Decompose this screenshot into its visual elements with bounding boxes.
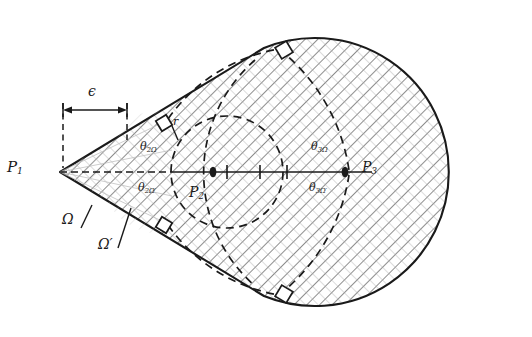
label-theta3-omega: θ3Ω (311, 141, 328, 153)
leader-omega (81, 205, 92, 228)
label-p3: P3 (362, 160, 377, 176)
label-omega-prime: Ω′ (98, 237, 113, 251)
label-p2: P2 (189, 185, 204, 201)
geometry-figure: P1 P2 P3 Ω Ω′ ϵ r θ2Ω θ2Ω′ θ3Ω θ3Ω′ (0, 0, 532, 337)
label-epsilon: ϵ (88, 84, 96, 98)
label-theta2-omega: θ2Ω (140, 141, 157, 153)
label-p1: P1 (7, 160, 23, 175)
label-theta3-omega-prime: θ3Ω′ (309, 182, 327, 194)
diagram-canvas (0, 0, 532, 337)
label-theta2-omega-prime: θ2Ω′ (138, 182, 156, 194)
label-omega: Ω (62, 212, 74, 226)
label-radius: r (173, 116, 178, 127)
